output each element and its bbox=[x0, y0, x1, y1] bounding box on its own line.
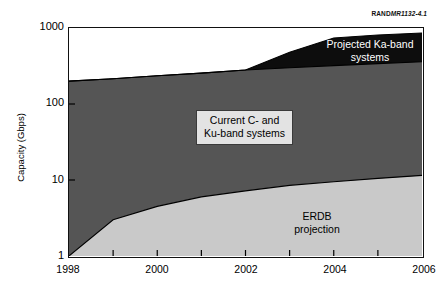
annotation-ka-line-2: systems bbox=[308, 51, 432, 64]
annotation-current-line-2: Ku-band systems bbox=[204, 127, 285, 140]
annotation-current-line-1: Current C- and bbox=[204, 114, 285, 127]
y-tick-label-1000: 1000 bbox=[22, 21, 64, 32]
annotation-erdb-line-1: ERDB bbox=[272, 210, 362, 223]
source-code-prefix: RAND bbox=[372, 10, 391, 17]
annotation-erdb-projection: ERDB projection bbox=[272, 210, 362, 236]
chart-figure: RANDMR1132-4.1 Capacity (Gbps) 1000 100 … bbox=[0, 0, 436, 292]
report-source-code: RANDMR1132-4.1 bbox=[372, 10, 427, 17]
annotation-current-c-ku-band: Current C- and Ku-band systems bbox=[196, 110, 293, 145]
y-tick-label-1: 1 bbox=[22, 250, 64, 261]
x-tick-label-2000: 2000 bbox=[127, 263, 187, 275]
x-tick-label-2002: 2002 bbox=[216, 263, 276, 275]
annotation-erdb-line-2: projection bbox=[272, 223, 362, 236]
x-tick-label-2006: 2006 bbox=[394, 263, 436, 275]
y-tick-label-100: 100 bbox=[22, 97, 64, 108]
x-tick-label-1998: 1998 bbox=[38, 263, 98, 275]
annotation-ka-line-1: Projected Ka-band bbox=[308, 38, 432, 51]
x-tick-label-2004: 2004 bbox=[305, 263, 365, 275]
source-code-number: MR1132-4.1 bbox=[391, 10, 427, 17]
y-tick-label-10: 10 bbox=[22, 174, 64, 185]
annotation-projected-ka-band: Projected Ka-band systems bbox=[308, 38, 432, 64]
y-axis-ticks: 1000 100 10 1 bbox=[18, 0, 64, 292]
